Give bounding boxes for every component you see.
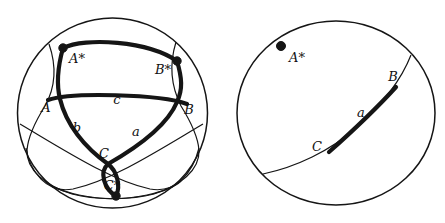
pole-a-dot-right	[277, 42, 286, 51]
label-vertex-b-right: B	[387, 69, 398, 84]
label-side-c-left: c	[113, 92, 121, 107]
label-pole-a-right: A*	[288, 50, 305, 65]
label-vertex-c-left: C	[99, 146, 109, 161]
pole-b-dot	[173, 57, 181, 65]
pole-c-dot	[112, 192, 120, 200]
spherical-geometry-figure: A* B* C* A B C a b c A* B C a	[0, 0, 445, 223]
label-pole-a-left: A*	[68, 51, 85, 66]
right-sphere-outline	[237, 21, 435, 205]
figure-canvas: A* B* C* A B C a b c A* B C a	[0, 0, 445, 223]
label-vertex-b-left: B	[183, 102, 194, 117]
label-vertex-c-right: C	[312, 139, 322, 154]
pole-a-dot	[59, 44, 67, 52]
right-sphere: A* B C a	[237, 21, 435, 205]
label-side-a-right: a	[357, 105, 365, 120]
label-pole-c-left: C*	[104, 178, 121, 193]
label-pole-b-left: B*	[154, 62, 172, 77]
label-side-a-left: a	[132, 124, 140, 139]
label-side-b-left: b	[73, 120, 81, 135]
label-vertex-a-left: A	[40, 100, 50, 115]
left-sphere: A* B* C* A B C a b c	[18, 18, 208, 208]
